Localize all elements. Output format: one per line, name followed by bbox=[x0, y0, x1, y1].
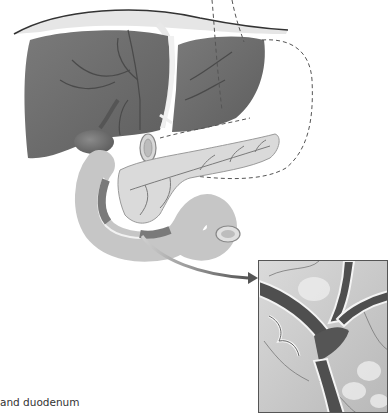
gallbladder bbox=[74, 130, 114, 154]
inset-magnified-ampulla bbox=[258, 260, 388, 413]
anatomy-figure: and duodenum bbox=[0, 0, 391, 414]
figure-caption: and duodenum bbox=[0, 396, 80, 408]
